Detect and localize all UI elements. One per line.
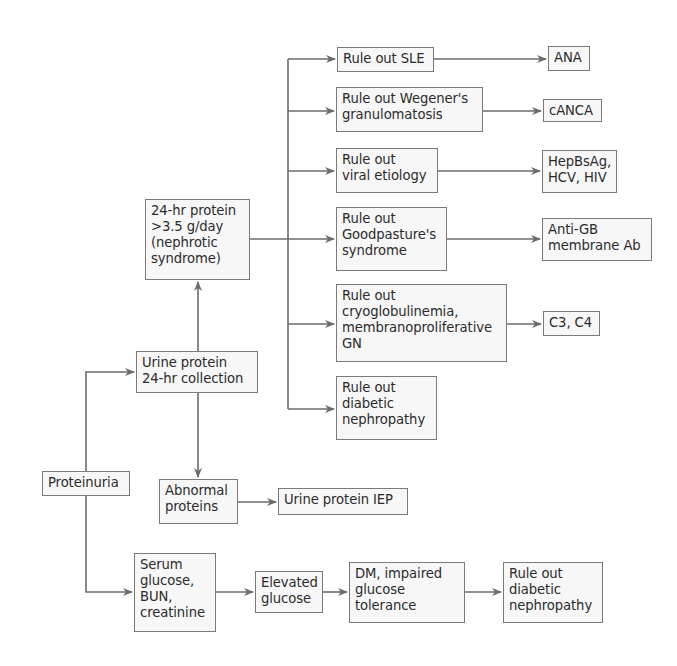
node-rule-out-diabetic-upper: Rule out diabetic nephropathy — [336, 376, 437, 440]
node-elevated-glucose: Elevated glucose — [255, 571, 323, 613]
node-rule-out-diabetic-lower: Rule out diabetic nephropathy — [503, 562, 603, 623]
node-proteinuria: Proteinuria — [42, 471, 130, 496]
node-canca: cANCA — [543, 99, 602, 122]
node-abnormal-proteins: Abnormal proteins — [159, 479, 238, 524]
node-dm-impaired-tolerance: DM, impaired glucose tolerance — [349, 562, 465, 623]
node-c3-c4: C3, C4 — [543, 311, 600, 336]
node-hep-hcv-hiv: HepBsAg, HCV, HIV — [542, 150, 617, 193]
node-rule-out-wegener: Rule out Wegener's granulomatosis — [336, 87, 483, 132]
node-serum-glucose-bun: Serum glucose, BUN, creatinine — [134, 553, 216, 632]
flowchart-canvas: Proteinuria Urine protein 24-hr collecti… — [0, 0, 677, 666]
node-rule-out-viral: Rule out viral etiology — [336, 148, 438, 193]
node-nephrotic-syndrome: 24-hr protein >3.5 g/day (nephrotic synd… — [145, 199, 250, 280]
node-rule-out-cryoglobulinemia: Rule out cryoglobulinemia, membranoproli… — [336, 284, 507, 362]
node-anti-gb-ab: Anti-GB membrane Ab — [542, 218, 652, 261]
node-urine-protein-collection: Urine protein 24-hr collection — [136, 351, 258, 393]
node-rule-out-sle: Rule out SLE — [337, 47, 434, 72]
node-rule-out-goodpasture: Rule out Goodpasture's syndrome — [336, 207, 447, 271]
node-ana: ANA — [548, 46, 590, 71]
node-urine-protein-iep: Urine protein IEP — [278, 488, 408, 515]
